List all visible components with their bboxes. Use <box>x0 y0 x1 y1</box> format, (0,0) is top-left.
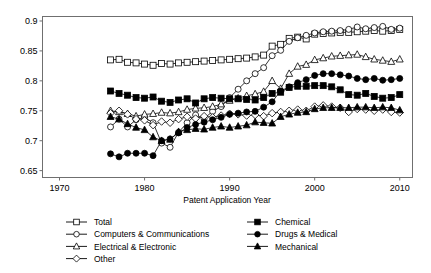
data-point-circle-filled <box>278 88 284 94</box>
data-point-square-open <box>167 61 173 67</box>
data-point-square-open <box>125 59 131 65</box>
y-tick-label: 0.85 <box>20 46 38 56</box>
data-point-circle-filled <box>210 117 216 123</box>
data-point-circle-filled <box>303 77 309 83</box>
data-point-square-filled <box>210 95 216 101</box>
y-tick-label: 0.9 <box>25 16 38 26</box>
data-point-circle-open <box>397 25 403 31</box>
data-point-square-open <box>269 43 275 49</box>
data-point-square-open <box>201 58 207 64</box>
y-tick-label: 0.75 <box>20 106 38 116</box>
data-point-square-open <box>133 60 139 66</box>
data-point-square-filled <box>142 95 148 101</box>
data-point-circle-filled <box>295 80 301 86</box>
data-point-circle-filled <box>312 72 318 78</box>
data-point-square-open <box>227 56 233 62</box>
chart-background <box>0 0 431 273</box>
data-point-square-filled <box>150 94 156 100</box>
data-point-square-open <box>116 56 122 62</box>
data-point-circle-filled <box>108 151 114 157</box>
data-point-circle-open <box>252 71 258 77</box>
data-point-square-open <box>261 52 267 58</box>
data-point-square-filled <box>329 84 335 90</box>
y-tick-label: 0.65 <box>20 166 38 176</box>
y-tick-label: 0.7 <box>25 136 38 146</box>
data-point-square-filled <box>244 96 250 102</box>
data-point-square-open <box>235 56 241 62</box>
data-point-square-filled <box>363 90 369 96</box>
data-point-circle-filled <box>252 108 258 114</box>
data-point-circle-filled <box>125 150 131 156</box>
data-point-circle-open <box>244 78 250 84</box>
data-point-circle-filled <box>218 114 224 120</box>
legend-label: Electrical & Electronic <box>94 242 177 252</box>
data-point-square-open <box>150 62 156 68</box>
data-point-square-filled <box>303 83 309 89</box>
data-point-square-filled <box>397 92 403 98</box>
data-point-circle-open <box>167 144 173 150</box>
data-point-circle-open <box>74 231 80 237</box>
data-point-circle-open <box>295 35 301 41</box>
legend-label: Drugs & Medical <box>275 229 337 239</box>
data-point-circle-open <box>354 24 360 30</box>
data-point-square-filled <box>269 90 275 96</box>
data-point-square-filled <box>371 93 377 99</box>
line-chart: 0.650.70.750.80.850.9 197019801990200020… <box>0 0 431 273</box>
data-point-square-filled <box>133 95 139 101</box>
x-tick-label: 1980 <box>135 183 155 193</box>
data-point-square-filled <box>108 88 114 94</box>
data-point-square-open <box>193 59 199 65</box>
data-point-circle-filled <box>371 75 377 81</box>
data-point-square-open <box>210 57 216 63</box>
data-point-circle-filled <box>397 75 403 81</box>
x-tick-label: 2010 <box>390 183 410 193</box>
data-point-square-filled <box>218 95 224 101</box>
data-point-square-filled <box>125 92 131 98</box>
x-tick-label: 2000 <box>305 183 325 193</box>
data-point-circle-filled <box>255 231 261 237</box>
data-point-square-filled <box>159 98 165 104</box>
data-point-square-filled <box>193 100 199 106</box>
data-point-circle-filled <box>142 150 148 156</box>
data-point-square-open <box>218 57 224 63</box>
data-point-circle-filled <box>133 150 139 156</box>
data-point-square-filled <box>116 90 122 96</box>
data-point-circle-filled <box>227 111 233 117</box>
y-tick-label: 0.8 <box>25 76 38 86</box>
data-point-circle-filled <box>244 109 250 115</box>
chart-figure: 0.650.70.750.80.850.9 197019801990200020… <box>0 0 431 273</box>
data-point-circle-filled <box>286 84 292 90</box>
data-point-circle-open <box>388 26 394 32</box>
data-point-square-filled <box>312 83 318 89</box>
x-tick-label: 1970 <box>49 183 69 193</box>
data-point-circle-open <box>329 28 335 34</box>
data-point-circle-filled <box>337 72 343 78</box>
x-axis-title: Patent Application Year <box>183 195 271 205</box>
data-point-circle-open <box>371 25 377 31</box>
data-point-square-open <box>142 61 148 67</box>
data-point-circle-open <box>235 86 241 92</box>
data-point-circle-filled <box>329 71 335 77</box>
data-point-circle-filled <box>235 110 241 116</box>
data-point-square-open <box>278 41 284 47</box>
data-point-square-filled <box>201 96 207 102</box>
data-point-square-filled <box>235 96 241 102</box>
data-point-square-open <box>252 54 258 60</box>
legend-label: Chemical <box>275 217 311 227</box>
data-point-circle-filled <box>346 73 352 79</box>
data-point-circle-filled <box>150 153 156 159</box>
data-point-square-open <box>74 219 80 225</box>
data-point-circle-filled <box>261 104 267 110</box>
data-point-circle-filled <box>320 71 326 77</box>
data-point-circle-filled <box>201 119 207 125</box>
data-point-circle-filled <box>363 77 369 83</box>
data-point-square-open <box>244 55 250 61</box>
data-point-square-filled <box>320 83 326 89</box>
data-point-circle-open <box>363 26 369 32</box>
data-point-circle-filled <box>380 77 386 83</box>
data-point-circle-filled <box>354 75 360 81</box>
data-point-circle-open <box>320 29 326 35</box>
data-point-square-filled <box>167 99 173 105</box>
data-point-square-filled <box>227 96 233 102</box>
data-point-circle-open <box>380 23 386 29</box>
